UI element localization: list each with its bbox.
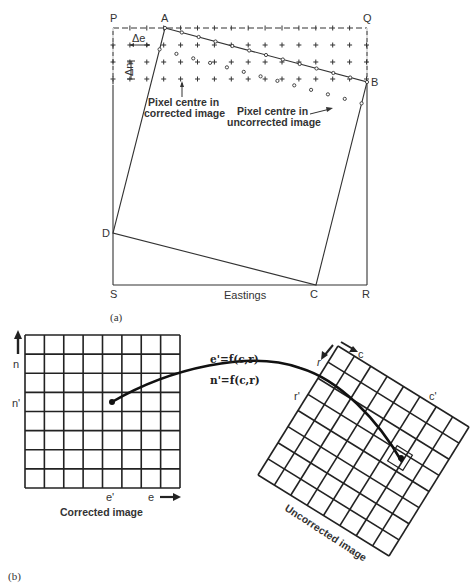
label-r-prime: r' xyxy=(294,390,300,402)
figure-a: P A Q B D S C R Eastings Δe Δn Pixel cen… xyxy=(102,12,378,324)
caption-b: (b) xyxy=(8,570,21,583)
annotation-uncorrected-line2: uncorrected image xyxy=(227,116,321,128)
equation-n: n'=f(c,r) xyxy=(210,374,260,386)
label-n: n xyxy=(13,358,19,370)
label-c-axis: c xyxy=(358,348,364,360)
label-eastings: Eastings xyxy=(224,289,267,301)
label-n-prime: n' xyxy=(12,397,20,409)
label-e: e xyxy=(148,491,154,503)
label-c-prime: c' xyxy=(429,390,437,402)
equation-e: e'=f(c,r) xyxy=(210,353,259,365)
caption-a: (a) xyxy=(110,311,123,324)
label-q: Q xyxy=(363,12,372,24)
label-s: S xyxy=(110,288,117,300)
pixel-centre-grid-corrected xyxy=(111,26,370,82)
quadrilateral-abcd xyxy=(113,28,367,285)
uncorrected-image-grid xyxy=(258,346,469,556)
label-e-prime: e' xyxy=(106,491,114,503)
figure-b: n n' e' e Corrected image e'=f(c,r) n'=f… xyxy=(8,330,469,583)
pixel-centre-grid-uncorrected xyxy=(158,26,369,105)
label-b: B xyxy=(371,76,378,88)
annotation-corrected-line2: corrected image xyxy=(144,107,225,119)
label-delta-e: Δe xyxy=(132,32,145,44)
corrected-image-title: Corrected image xyxy=(60,506,143,518)
label-p: P xyxy=(110,12,117,24)
label-a: A xyxy=(161,12,169,24)
east-arrow-icon xyxy=(173,493,181,501)
label-d: D xyxy=(102,227,110,239)
north-arrow-icon xyxy=(14,330,22,339)
georeferencing-diagram: P A Q B D S C R Eastings Δe Δn Pixel cen… xyxy=(0,0,475,584)
label-r: R xyxy=(362,288,370,300)
label-c: C xyxy=(310,288,318,300)
corrected-image-grid xyxy=(25,335,180,488)
label-delta-n: Δn xyxy=(123,63,135,76)
